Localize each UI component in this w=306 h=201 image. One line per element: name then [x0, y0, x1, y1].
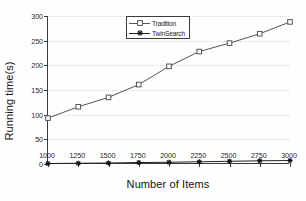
legend-marker-square-icon	[129, 18, 150, 28]
chart-figure: Running time(s) 050100150200250300 10001…	[0, 0, 306, 201]
data-point-marker-asterisk	[76, 161, 81, 166]
y-axis-title: Running time(s)	[0, 0, 20, 201]
data-point-marker-square	[257, 31, 262, 36]
data-point-marker-asterisk	[136, 160, 141, 165]
y-axis-tick-label: 50	[35, 135, 43, 144]
x-axis-title-text: Number of Items	[127, 178, 210, 190]
legend-label-twinsearch: TwinSearch	[150, 30, 185, 37]
data-point-marker-asterisk	[166, 160, 171, 165]
y-axis-tick-label: 150	[31, 86, 43, 95]
data-point-marker-square	[106, 95, 111, 100]
y-axis-title-text: Running time(s)	[3, 61, 15, 140]
x-axis-tick-label: 1750	[130, 151, 146, 160]
data-point-marker-square	[288, 20, 293, 25]
legend-label-tradition: Tradition	[150, 20, 176, 27]
x-axis-tick-label: 2000	[160, 151, 176, 160]
legend-entry-twinsearch: TwinSearch	[129, 28, 187, 38]
data-point-marker-asterisk	[106, 160, 111, 165]
legend-entry-tradition: Tradition	[129, 18, 187, 28]
x-axis-tick-label: 2500	[221, 151, 237, 160]
legend-marker-asterisk-icon	[129, 28, 150, 38]
data-point-marker-square	[136, 82, 141, 87]
x-axis-tick-label: 1500	[100, 151, 116, 160]
data-point-marker-square	[227, 41, 232, 46]
x-axis-tick-label: 2250	[190, 151, 206, 160]
y-axis-tick-label: 0	[39, 160, 43, 169]
data-point-marker-square	[167, 64, 172, 69]
legend: Tradition TwinSearch	[126, 16, 190, 39]
y-axis-tick-label: 250	[31, 37, 43, 46]
y-axis-tick-label: 300	[31, 12, 43, 21]
data-point-marker-square	[46, 116, 51, 121]
data-point-marker-square	[197, 49, 202, 54]
data-point-marker-asterisk	[45, 161, 50, 166]
x-axis-tick-label: 1250	[69, 151, 85, 160]
data-point-marker-square	[76, 104, 81, 109]
y-axis-tick-label: 200	[31, 61, 43, 70]
x-axis-tick-label: 1000	[39, 151, 55, 160]
x-axis-title: Number of Items	[47, 178, 289, 190]
x-axis-tick-label: 2750	[251, 151, 267, 160]
y-axis-tick-label: 100	[31, 111, 43, 120]
x-axis-tick	[290, 163, 291, 167]
x-axis-tick-label: 3000	[281, 151, 297, 160]
